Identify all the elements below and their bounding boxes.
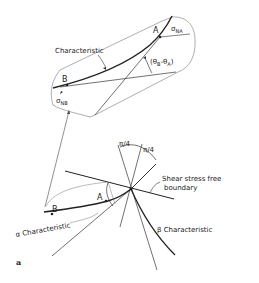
- beta-characteristic-curve: [131, 189, 175, 255]
- radial-line-1: [118, 145, 157, 270]
- inset-characteristic-label: Characteristic: [55, 47, 104, 55]
- beta-characteristic-label: β Characteristic: [157, 226, 213, 234]
- inset-sigma-nb-arrow: [60, 91, 63, 94]
- pi4-left-label: π/4: [119, 140, 131, 148]
- alpha-leader: [70, 213, 98, 223]
- main-point-b-label: B: [52, 205, 58, 214]
- main-slip-line-field: π/4 π/4 Shear stress free boundary A B α…: [15, 140, 221, 270]
- main-focus-point: [130, 188, 133, 191]
- boundary-label-line2: boundary: [164, 184, 197, 192]
- slip-line-diagram: Characteristic A B σNA σNB (θB-θA): [0, 0, 259, 283]
- inset-angle-label: (θB-θA): [150, 58, 174, 67]
- radial-line-4: [131, 164, 156, 189]
- shear-free-boundary-line: [65, 171, 174, 199]
- inset-magnified-view: Characteristic A B σNA σNB (θB-θA): [51, 16, 195, 117]
- inset-sigma-na-label: σNA: [171, 25, 183, 34]
- alpha-characteristic-label: α Characteristic: [15, 221, 71, 239]
- main-point-a-label: A: [97, 193, 103, 202]
- boundary-label-line1: Shear stress free: [162, 175, 221, 183]
- main-point-a: [105, 200, 108, 203]
- inset-point-a: [159, 36, 162, 39]
- inset-leader-arrow: [103, 67, 106, 70]
- inset-characteristic-leader: [98, 55, 106, 68]
- connector-line: [45, 111, 69, 207]
- panel-label: a: [16, 257, 21, 267]
- inset-point-b-label: B: [62, 75, 68, 84]
- inset-line-b: [60, 72, 176, 87]
- boundary-leader: [150, 182, 160, 193]
- inset-sigma-nb-label: σNB: [56, 97, 68, 106]
- inset-point-a-label: A: [153, 26, 159, 35]
- inset-sigma-na-line: [160, 34, 190, 37]
- inset-point-b: [66, 84, 69, 87]
- pi4-right-label: π/4: [143, 146, 155, 154]
